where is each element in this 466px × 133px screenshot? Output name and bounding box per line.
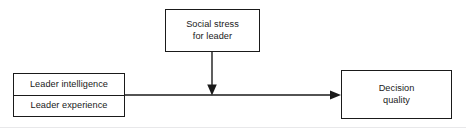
social-stress-to-path-arrow <box>207 52 217 96</box>
social-stress-line-2: for leader <box>193 31 232 43</box>
leader-experience-cell: Leader experience <box>14 95 124 117</box>
predictors-to-decision-arrow <box>125 91 341 100</box>
leader-intelligence-label: Leader intelligence <box>30 79 108 90</box>
social-stress-box: Social stress for leader <box>165 9 260 52</box>
bottom-rule <box>0 127 466 128</box>
decision-quality-line-1: Decision <box>379 83 415 95</box>
leader-intelligence-cell: Leader intelligence <box>14 74 124 95</box>
predictors-box: Leader intelligence Leader experience <box>13 73 125 117</box>
path-diagram: Social stress for leader Leader intellig… <box>0 0 466 133</box>
social-stress-arrowhead <box>207 85 217 96</box>
social-stress-line-1: Social stress <box>186 19 239 31</box>
decision-quality-box: Decision quality <box>341 70 452 119</box>
leader-experience-label: Leader experience <box>31 100 108 111</box>
predictors-to-decision-arrowhead <box>330 91 341 100</box>
decision-quality-line-2: quality <box>383 95 410 107</box>
